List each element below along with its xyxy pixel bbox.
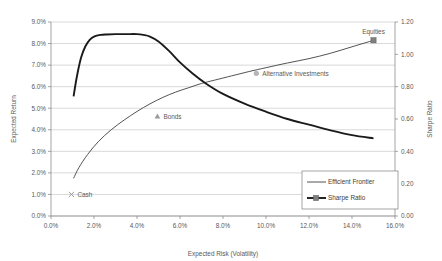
- x-tick-label: 6.0%: [173, 222, 188, 229]
- point-label-alternative-investments: Alternative Investments: [262, 70, 328, 77]
- y2-tick-label: 1.00: [401, 51, 414, 58]
- y2-axis-title: Sharpe Ratio: [426, 100, 434, 138]
- y2-tick-label: 1.20: [401, 18, 414, 25]
- legend-box: [302, 171, 398, 209]
- x-tick-label: 10.0%: [257, 222, 275, 229]
- chart-legend[interactable]: Efficient FrontierSharpe Ratio: [302, 171, 398, 209]
- y-tick-label: 3.0%: [31, 148, 46, 155]
- x-tick-label: 0.0%: [44, 222, 59, 229]
- y-tick-label: 8.0%: [31, 40, 46, 47]
- point-label-equities: Equities: [362, 28, 385, 36]
- chart-container: 0.0%2.0%4.0%6.0%8.0%10.0%12.0%14.0%16.0%…: [0, 0, 442, 261]
- marker-equities: [371, 38, 376, 43]
- y-tick-label: 4.0%: [31, 126, 46, 133]
- legend-label-efficient-frontier[interactable]: Efficient Frontier: [328, 178, 375, 185]
- y2-tick-label: 0.40: [401, 148, 414, 155]
- legend-label-sharpe-ratio[interactable]: Sharpe Ratio: [328, 194, 366, 202]
- y-tick-label: 0.0%: [31, 212, 46, 219]
- x-axis-title: Expected Risk (Volatility): [188, 250, 258, 258]
- y2-tick-label: 0.60: [401, 115, 414, 122]
- y-tick-label: 6.0%: [31, 83, 46, 90]
- y2-tick-label: 0.20: [401, 180, 414, 187]
- legend-swatch-sharpe-ratio-marker: [314, 195, 319, 200]
- x-tick-label: 12.0%: [300, 222, 318, 229]
- x-tick-label: 8.0%: [216, 222, 231, 229]
- point-label-bonds: Bonds: [163, 113, 181, 120]
- x-tick-label: 2.0%: [87, 222, 102, 229]
- y-tick-label: 9.0%: [31, 18, 46, 25]
- y2-tick-label: 0.00: [401, 212, 414, 219]
- y-tick-label: 1.0%: [31, 191, 46, 198]
- y-tick-label: 5.0%: [31, 105, 46, 112]
- y-tick-label: 7.0%: [31, 61, 46, 68]
- x-tick-label: 14.0%: [343, 222, 361, 229]
- x-tick-label: 4.0%: [130, 222, 145, 229]
- y-axis-title: Expected Return: [10, 95, 18, 143]
- point-label-cash: Cash: [77, 191, 92, 198]
- x-tick-label: 16.0%: [386, 222, 404, 229]
- y2-tick-label: 0.80: [401, 83, 414, 90]
- y-tick-label: 2.0%: [31, 169, 46, 176]
- efficient-frontier-chart: 0.0%2.0%4.0%6.0%8.0%10.0%12.0%14.0%16.0%…: [0, 0, 442, 261]
- marker-alternative-investments: [254, 71, 259, 76]
